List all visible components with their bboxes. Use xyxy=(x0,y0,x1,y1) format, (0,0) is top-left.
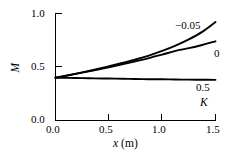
x-axis-title: x(m) xyxy=(113,138,138,150)
x-tick-label-0.0: 0.0 xyxy=(46,124,60,135)
curve-label-k-minus-0.05: −0.05 xyxy=(175,20,200,31)
x-tick-label-1.5: 1.5 xyxy=(206,124,220,135)
chart-figure: 1.0 0.5 0.0 0.0 0.5 1.0 1.5 M x(m) −0.05… xyxy=(0,0,231,157)
x-tick-label-0.5: 0.5 xyxy=(99,124,113,135)
y-tick-label-1.0: 1.0 xyxy=(31,8,45,19)
x-tick-label-1.0: 1.0 xyxy=(152,124,166,135)
y-axis-title-text: M xyxy=(9,63,21,73)
curve-label-k-0.5: 0.5 xyxy=(196,82,210,93)
y-tick-label-0.0: 0.0 xyxy=(31,114,45,125)
x-axis-title-variable: x xyxy=(113,137,118,149)
curve-label-k-0: 0 xyxy=(214,48,220,59)
y-axis-title: M xyxy=(10,63,22,73)
curve-k-0.5 xyxy=(56,78,216,80)
x-axis-title-unit: (m) xyxy=(121,137,138,149)
legend-key-K: K xyxy=(200,97,208,109)
y-tick-label-0.5: 0.5 xyxy=(31,61,45,72)
